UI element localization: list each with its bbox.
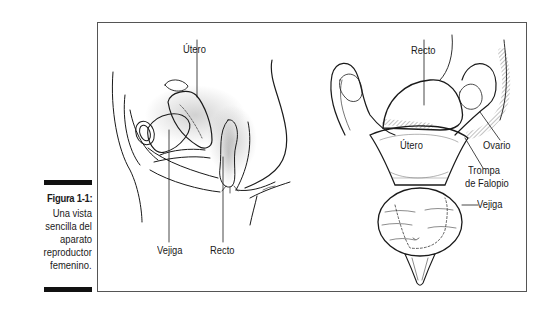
label-ovary: Ovario (483, 139, 511, 151)
label-bladder-lateral: Vejiga (157, 244, 182, 256)
frontal-view-drawing (331, 35, 507, 285)
label-fallopian-tube-2: de Falopio (465, 177, 509, 189)
label-uterus-lateral: Útero (183, 43, 206, 55)
label-rectum-frontal: Recto (411, 44, 435, 56)
label-rectum-lateral: Recto (210, 244, 234, 256)
label-bladder-frontal: Vejiga (477, 198, 502, 210)
label-uterus-frontal: Útero (400, 139, 423, 151)
lateral-view-drawing (112, 40, 290, 242)
anatomy-illustrations (0, 0, 553, 310)
label-fallopian-tube-1: Trompa (468, 164, 500, 176)
